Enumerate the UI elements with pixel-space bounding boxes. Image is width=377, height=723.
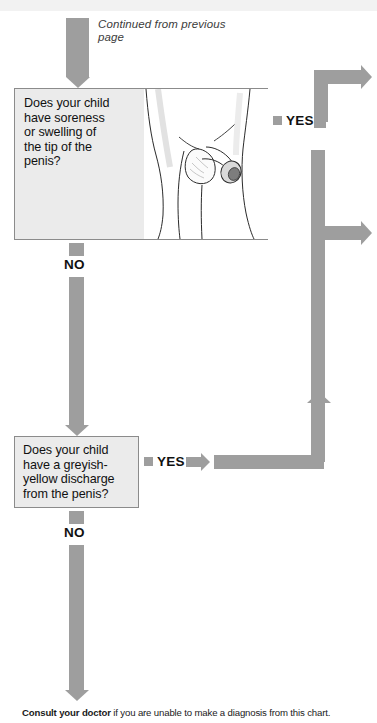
q2-yes-short-arrow-head — [201, 453, 210, 471]
q2-yes-label: YES — [157, 455, 185, 469]
continued-from-previous-page-note: Continued from previous page — [98, 18, 238, 44]
illustration-line-drawing — [144, 89, 268, 239]
q1-no-stub — [69, 243, 84, 256]
question-2-text: Does your child have a greyish- yellow d… — [23, 443, 141, 501]
q1-yes-label: YES — [286, 114, 314, 128]
right-column-run — [318, 226, 362, 240]
footer-advice-rest: if you are unable to make a diagnosis fr… — [111, 707, 330, 718]
penis-soreness-illustration — [144, 89, 268, 239]
q2-yes-short-arrow-shaft — [186, 457, 202, 467]
question-1-text: Does your child have soreness or swellin… — [24, 96, 139, 169]
q1-yes-bullet — [273, 116, 282, 125]
page-top-strip — [0, 0, 377, 11]
q2-no-arrow-head — [65, 690, 89, 701]
footer-advice-bold: Consult your doctor — [22, 707, 111, 718]
q2-yes-bullet — [144, 457, 153, 466]
symptom-flowchart: Continued from previous page Does your c… — [0, 0, 377, 723]
q1-yes-run — [318, 70, 362, 84]
q2-no-stub — [69, 511, 84, 524]
q2-yes-run — [214, 455, 324, 469]
q2-yes-riser — [311, 400, 325, 462]
q1-yes-arrow-head — [361, 65, 372, 89]
right-column-arrow-head — [361, 221, 372, 245]
question-box-2: Does your child have a greyish- yellow d… — [14, 436, 139, 508]
q1-no-arrow-head — [65, 425, 89, 436]
q2-no-shaft — [69, 545, 84, 691]
q1-no-shaft — [69, 277, 84, 426]
q1-no-label: NO — [64, 258, 85, 272]
question-box-1: Does your child have soreness or swellin… — [14, 88, 268, 240]
right-column-shaft — [311, 150, 325, 402]
entry-arrow-head — [66, 77, 90, 88]
q2-no-label: NO — [64, 526, 85, 540]
entry-arrow-shaft — [66, 18, 89, 77]
footer-advice: Consult your doctor if you are unable to… — [22, 707, 367, 718]
